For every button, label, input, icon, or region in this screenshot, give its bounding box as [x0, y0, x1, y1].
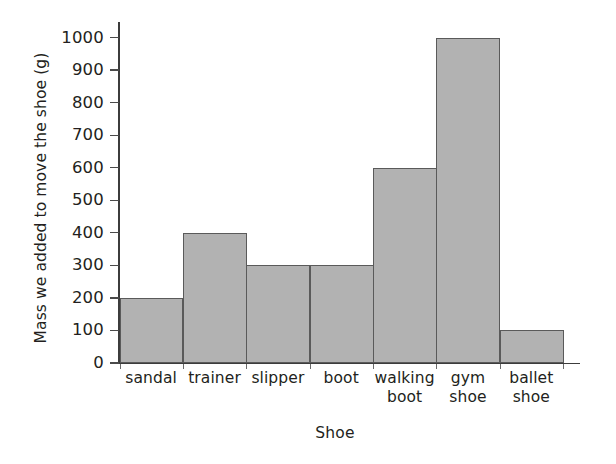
bar-chart: Mass we added to move the shoe (g) 01002… [0, 0, 616, 464]
x-axis-title-text: Shoe [315, 424, 354, 442]
bar [183, 233, 247, 363]
bar [310, 265, 374, 363]
bar [373, 168, 437, 363]
x-category-label: ballet shoe [494, 369, 569, 407]
bar [120, 298, 184, 363]
x-axis-title: Shoe [0, 424, 616, 442]
bar [500, 330, 564, 363]
bar [436, 38, 500, 364]
bar [246, 265, 310, 363]
